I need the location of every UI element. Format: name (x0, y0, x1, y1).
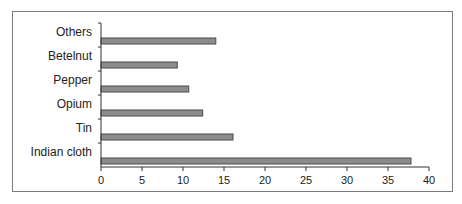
x-tick-label: 40 (423, 174, 435, 186)
category-label: Pepper (53, 73, 92, 87)
bar-indian-cloth (101, 158, 411, 164)
x-tick-label: 0 (98, 174, 104, 186)
bar-pepper (101, 86, 189, 92)
category-label: Tin (76, 121, 92, 135)
bar-opium (101, 110, 203, 116)
category-label: Indian cloth (31, 145, 92, 159)
bars-group (101, 38, 411, 164)
bar-chart: Indian clothTinOpiumPepperBetelnutOthers… (0, 0, 462, 204)
x-tick-label: 20 (259, 174, 271, 186)
x-tick-label: 35 (382, 174, 394, 186)
bar-tin (101, 134, 233, 140)
x-tick-label: 25 (300, 174, 312, 186)
x-tick-label: 5 (139, 174, 145, 186)
category-label: Others (56, 25, 92, 39)
axes-group (98, 23, 429, 171)
bar-others (101, 38, 216, 44)
x-tick-label: 30 (341, 174, 353, 186)
x-tick-label: 15 (218, 174, 230, 186)
x-tick-label: 10 (177, 174, 189, 186)
category-label: Betelnut (48, 49, 93, 63)
bar-betelnut (101, 62, 177, 68)
category-label: Opium (57, 97, 92, 111)
